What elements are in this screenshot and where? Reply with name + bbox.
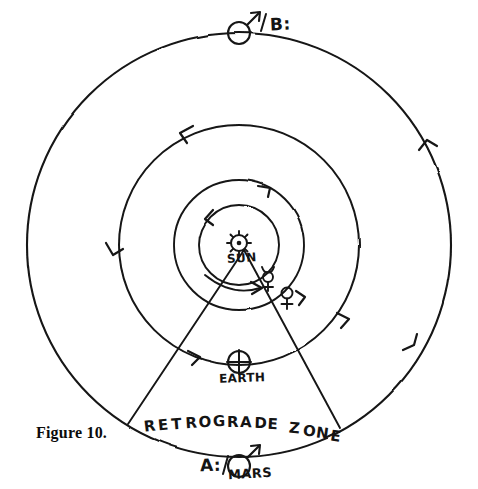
retrograde-zone-char: R	[227, 413, 239, 431]
retrograde-zone-char: T	[171, 414, 183, 433]
mars-position-b-label: B:	[269, 13, 291, 34]
retrograde-zone-char: R	[143, 416, 157, 435]
retrograde-zone-char: O	[199, 413, 213, 432]
retrograde-motion-figure: B: A: MARS SUN EARTH RETROGRADE ZONE Fig…	[0, 0, 478, 489]
earth-orbit-arrow-left	[106, 243, 123, 255]
sun-body-label: SUN	[227, 250, 258, 266]
retrograde-zone-char: D	[254, 414, 267, 432]
figure-caption: Figure 10.	[36, 424, 107, 442]
earth-orbit-arrow-right	[337, 313, 349, 328]
mercury-symbol	[262, 267, 274, 291]
label-b-tick	[261, 14, 266, 31]
venus-symbol	[282, 288, 293, 310]
retrograde-zone-char: A	[240, 413, 252, 431]
retrograde-zone-char: E	[157, 415, 169, 434]
retrograde-zone-char: R	[185, 413, 198, 432]
mars-position-a-label: A:	[200, 455, 222, 476]
retrograde-zone-char: O	[302, 421, 317, 440]
retrograde-zone-char: E	[267, 415, 278, 434]
retrograde-zone-label: RETROGRADE ZONE	[145, 392, 345, 426]
earth-body-label: EARTH	[219, 370, 266, 386]
retrograde-zone-char: G	[213, 412, 226, 430]
mars-body-label: MARS	[228, 465, 273, 482]
retrograde-zone-char: Z	[288, 419, 301, 438]
mars-symbol-b	[228, 12, 260, 44]
venus-orbit-arrow-top-right	[258, 186, 270, 197]
venus-orbit-arrow-right	[296, 291, 305, 305]
mars-orbit-arrow-lower-right	[403, 334, 417, 350]
earth-orbit-arrow-bottom	[188, 351, 200, 365]
